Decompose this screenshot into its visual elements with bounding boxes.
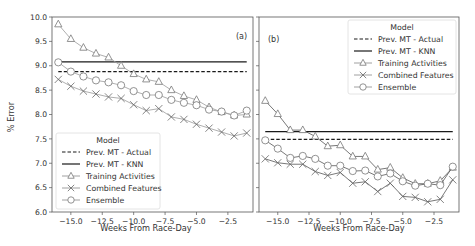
x-marker-icon bbox=[387, 180, 394, 187]
x-marker-icon bbox=[312, 168, 319, 175]
circle-marker-icon bbox=[68, 197, 74, 203]
triangle-marker-icon bbox=[362, 152, 369, 159]
y-tick-label: 6.0 bbox=[35, 208, 47, 217]
circle-marker-icon bbox=[412, 182, 419, 189]
circle-marker-icon bbox=[143, 91, 150, 98]
x-tick-label: −15.0 bbox=[266, 217, 289, 226]
circle-marker-icon bbox=[218, 108, 225, 115]
triangle-marker-icon bbox=[387, 163, 394, 170]
triangle-marker-icon bbox=[262, 97, 269, 104]
circle-marker-icon bbox=[231, 112, 238, 119]
legend-title: Model bbox=[96, 136, 119, 145]
circle-marker-icon bbox=[180, 99, 187, 106]
x-marker-icon bbox=[324, 172, 331, 179]
panel-b: −15.0−12.5−10.0−7.5−5.0−2.5(b)ModelPrev.… bbox=[256, 17, 459, 226]
triangle-marker-icon bbox=[168, 86, 175, 93]
y-tick-label: 10.0 bbox=[30, 13, 47, 22]
x-tick-label: −15.0 bbox=[59, 217, 82, 226]
triangle-marker-icon bbox=[349, 152, 356, 159]
x-marker-icon bbox=[205, 125, 212, 132]
legend-label: Prev. MT - Actual bbox=[86, 148, 151, 157]
x-marker-icon bbox=[262, 155, 269, 162]
x-marker-icon bbox=[55, 76, 62, 83]
x-marker-icon bbox=[180, 116, 187, 123]
triangle-marker-icon bbox=[312, 132, 319, 139]
series-training-activities bbox=[55, 20, 251, 118]
series-training-activities bbox=[262, 97, 457, 187]
y-tick-label: 9.0 bbox=[35, 61, 47, 70]
circle-marker-icon bbox=[92, 77, 99, 84]
legend-label: Ensemble bbox=[378, 83, 416, 92]
circle-marker-icon bbox=[243, 107, 250, 114]
circle-marker-icon bbox=[337, 162, 344, 169]
x-marker-icon bbox=[193, 121, 200, 128]
circle-marker-icon bbox=[374, 173, 381, 180]
circle-marker-icon bbox=[117, 82, 124, 89]
circle-marker-icon bbox=[362, 167, 369, 174]
circle-marker-icon bbox=[312, 155, 319, 162]
y-tick-label: 8.0 bbox=[35, 110, 47, 119]
circle-marker-icon bbox=[168, 96, 175, 103]
legend-label: Prev. MT - KNN bbox=[86, 160, 144, 169]
y-tick-label: 8.5 bbox=[35, 86, 47, 95]
x-marker-icon bbox=[231, 132, 238, 139]
x-marker-icon bbox=[243, 129, 250, 136]
triangle-marker-icon bbox=[337, 141, 344, 148]
x-marker-icon bbox=[424, 198, 431, 205]
circle-marker-icon bbox=[67, 68, 74, 75]
y-tick-label: 7.5 bbox=[35, 135, 47, 144]
y-tick-label: 6.5 bbox=[35, 183, 47, 192]
series-ensemble bbox=[262, 137, 457, 190]
x-marker-icon bbox=[449, 176, 456, 183]
x-marker-icon bbox=[92, 90, 99, 97]
x-marker-icon bbox=[337, 169, 344, 176]
legend: ModelPrev. MT - ActualPrev. MT - KNNTrai… bbox=[348, 20, 456, 94]
circle-marker-icon bbox=[274, 145, 281, 152]
legend-label: Training Activities bbox=[85, 172, 155, 181]
triangle-marker-icon bbox=[324, 142, 331, 149]
circle-marker-icon bbox=[437, 182, 444, 189]
y-tick-label: 9.5 bbox=[35, 37, 47, 46]
legend-label: Combined Features bbox=[86, 184, 162, 193]
x-axis-label-b: Weeks From Race-Day bbox=[313, 223, 405, 233]
x-marker-icon bbox=[218, 128, 225, 135]
circle-marker-icon bbox=[155, 91, 162, 98]
x-marker-icon bbox=[130, 101, 137, 108]
triangle-marker-icon bbox=[130, 70, 137, 77]
circle-marker-icon bbox=[105, 79, 112, 86]
triangle-marker-icon bbox=[55, 20, 62, 27]
x-marker-icon bbox=[67, 83, 74, 90]
circle-marker-icon bbox=[360, 84, 366, 90]
y-tick-label: 7.0 bbox=[35, 159, 47, 168]
x-axis-label-a: Weeks From Race-Day bbox=[100, 223, 192, 233]
circle-marker-icon bbox=[80, 73, 87, 80]
legend-label: Prev. MT - Actual bbox=[378, 35, 443, 44]
circle-marker-icon bbox=[399, 178, 406, 185]
legend-label: Training Activities bbox=[377, 59, 447, 68]
y-axis-label: % Error bbox=[6, 101, 16, 132]
circle-marker-icon bbox=[55, 59, 62, 66]
legend-title: Model bbox=[390, 23, 413, 32]
circle-marker-icon bbox=[349, 167, 356, 174]
panel-tag: (a) bbox=[236, 32, 247, 41]
x-marker-icon bbox=[437, 196, 444, 203]
x-marker-icon bbox=[168, 113, 175, 120]
panel-tag: (b) bbox=[268, 35, 279, 44]
circle-marker-icon bbox=[387, 170, 394, 177]
x-marker-icon bbox=[80, 88, 87, 95]
panel-a: 6.06.57.07.58.08.59.09.510.0−15.0−12.5−1… bbox=[30, 13, 253, 226]
legend-label: Prev. MT - KNN bbox=[378, 47, 436, 56]
x-marker-icon bbox=[374, 188, 381, 195]
x-tick-label: −2.5 bbox=[425, 217, 444, 226]
circle-marker-icon bbox=[193, 102, 200, 109]
circle-marker-icon bbox=[424, 180, 431, 187]
circle-marker-icon bbox=[299, 152, 306, 159]
triangle-marker-icon bbox=[117, 62, 124, 69]
circle-marker-icon bbox=[287, 154, 294, 161]
legend-label: Ensemble bbox=[86, 196, 124, 205]
circle-marker-icon bbox=[262, 137, 269, 144]
circle-marker-icon bbox=[205, 106, 212, 113]
x-tick-label: −2.5 bbox=[219, 217, 238, 226]
circle-marker-icon bbox=[449, 163, 456, 170]
figure: % Error 6.06.57.07.58.08.59.09.510.0−15.… bbox=[0, 0, 475, 246]
